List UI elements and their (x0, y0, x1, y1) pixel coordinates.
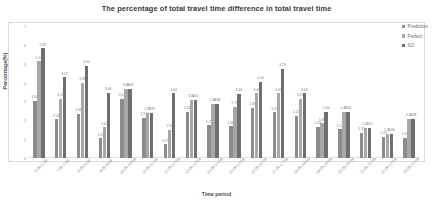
bar-prediction[interactable]: 2.66 (251, 26, 254, 158)
legend-item-so[interactable]: SO (402, 43, 428, 48)
bar-prediction[interactable]: 1.73 (207, 26, 210, 158)
bar-rect (320, 123, 323, 158)
bar-group: 1.131.301.30 (377, 26, 399, 158)
bar-so[interactable]: 3.40 (237, 26, 240, 158)
bar-prediction[interactable]: 1.33 (360, 26, 363, 158)
bar-rect (215, 104, 218, 158)
bar-so[interactable]: 4.73 (281, 26, 284, 158)
bar-group: 2.433.434.73 (268, 26, 290, 158)
bar-prediction[interactable]: 1.05 (99, 26, 102, 158)
bar-rect (190, 100, 193, 158)
legend-item-perfect[interactable]: Perfect (402, 34, 428, 39)
bar-prediction[interactable]: 2.35 (77, 26, 80, 158)
bar-rect (364, 128, 367, 158)
bar-so[interactable]: 3.66 (128, 26, 131, 158)
bar-group: 1.331.611.61 (355, 26, 377, 158)
x-label-cell: 22:00-22:59 (377, 163, 399, 193)
x-label-cell: 9:00-9:59 (93, 163, 115, 193)
bar-rect (360, 133, 363, 158)
bar-rect (41, 48, 44, 158)
y-axis-title: Percentage(%) (2, 53, 8, 90)
x-label-cell: 23:00-23:59 (398, 163, 420, 193)
bar-prediction[interactable]: 2.13 (142, 26, 145, 158)
bar-perfect[interactable]: 1.84 (320, 26, 323, 158)
bar-value-label: 1.61 (366, 123, 373, 126)
bar-rect (346, 112, 349, 158)
bar-so[interactable]: 2.86 (215, 26, 218, 158)
x-label-cell: 18:00-18:59 (289, 163, 311, 193)
bar-prediction[interactable]: 1.64 (316, 26, 319, 158)
bar-so[interactable]: 3.44 (172, 26, 175, 158)
bar-prediction[interactable]: 3.05 (33, 26, 36, 158)
bar-perfect[interactable]: 2.39 (146, 26, 149, 158)
bar-rect (207, 125, 210, 158)
bar-perfect[interactable]: 3.98 (81, 26, 84, 158)
bar-rect (150, 113, 153, 158)
bar-rect (411, 119, 414, 158)
bar-perfect[interactable]: 1.50 (168, 26, 171, 158)
bar-prediction[interactable]: 1.52 (338, 26, 341, 158)
bar-prediction[interactable]: 3.13 (120, 26, 123, 158)
bar-rect (194, 100, 197, 158)
bar-perfect[interactable]: 2.46 (342, 26, 345, 158)
bar-rect (37, 61, 40, 158)
y-axis-ticks: 01234567 (14, 22, 26, 162)
bar-so[interactable]: 3.43 (303, 26, 306, 158)
bar-prediction[interactable]: 2.45 (186, 26, 189, 158)
bar-perfect[interactable]: 1.63 (103, 26, 106, 158)
bar-rect (211, 104, 214, 158)
y-tick-label: 1 (24, 137, 26, 142)
bar-group: 2.353.984.90 (72, 26, 94, 158)
bar-value-label: 3.46 (105, 88, 112, 91)
bar-prediction[interactable]: 1.68 (229, 26, 232, 158)
bar-perfect[interactable]: 1.61 (364, 26, 367, 158)
bar-so[interactable]: 2.46 (324, 26, 327, 158)
legend-label: Perfect (408, 34, 423, 39)
x-label-cell: 20:00-20:59 (333, 163, 355, 193)
bar-so[interactable]: 2.39 (150, 26, 153, 158)
bar-perfect[interactable]: 3.66 (124, 26, 127, 158)
bar-groups: 3.055.135.822.053.134.272.353.984.901.05… (28, 26, 420, 158)
legend-item-prediction[interactable]: Prediction (402, 24, 428, 29)
bar-rect (390, 134, 393, 159)
bar-perfect[interactable]: 2.86 (211, 26, 214, 158)
bar-so[interactable]: 5.82 (41, 26, 44, 158)
bar-so[interactable]: 4.05 (259, 26, 262, 158)
bar-value-label: 3.44 (170, 89, 177, 92)
bar-rect (386, 134, 389, 159)
bar-so[interactable]: 1.30 (390, 26, 393, 158)
bar-perfect[interactable]: 3.43 (277, 26, 280, 158)
bar-rect (103, 127, 106, 158)
bar-so[interactable]: 3.46 (107, 26, 110, 158)
bar-rect (407, 119, 410, 158)
bar-group: 1.641.842.46 (311, 26, 333, 158)
bar-value-label: 2.08 (410, 114, 417, 117)
bar-perfect[interactable]: 3.10 (190, 26, 193, 158)
y-tick-label: 0 (24, 156, 26, 161)
bar-rect (403, 138, 406, 158)
bar-group: 2.663.444.05 (246, 26, 268, 158)
plot-area: 3.055.135.822.053.134.272.353.984.901.05… (28, 26, 420, 158)
bar-rect (277, 93, 280, 158)
bar-rect (85, 66, 88, 158)
bar-prediction[interactable]: 2.05 (55, 26, 58, 158)
bar-so[interactable]: 1.61 (368, 26, 371, 158)
bar-prediction[interactable]: 1.13 (382, 26, 385, 158)
y-tick-label: 5 (24, 61, 26, 66)
bar-so[interactable]: 2.46 (346, 26, 349, 158)
bar-so[interactable]: 4.27 (63, 26, 66, 158)
bar-rect (229, 126, 232, 158)
x-axis-title: Time period (0, 191, 433, 197)
x-label-cell: 17:00-17:59 (268, 163, 290, 193)
bar-rect (295, 116, 298, 158)
bar-group: 0.731.503.44 (159, 26, 181, 158)
bar-perfect[interactable]: 3.44 (255, 26, 258, 158)
bar-prediction[interactable]: 0.73 (164, 26, 167, 158)
bar-perfect[interactable]: 3.13 (59, 26, 62, 158)
bar-prediction[interactable]: 2.25 (295, 26, 298, 158)
bar-so[interactable]: 4.90 (85, 26, 88, 158)
bar-value-label: 3.66 (127, 84, 134, 87)
bar-perfect[interactable]: 1.30 (386, 26, 389, 158)
legend-swatch-icon (402, 34, 406, 38)
bar-so[interactable]: 3.10 (194, 26, 197, 158)
